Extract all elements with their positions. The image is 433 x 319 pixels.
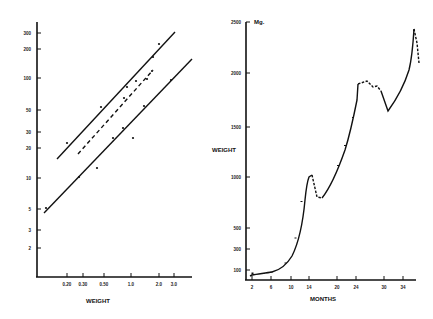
right-y-label: 1500: [231, 125, 242, 130]
left-x-label: 0.20: [63, 282, 72, 287]
right-y-label: 100: [233, 268, 241, 273]
right-x-label: 24: [353, 285, 359, 290]
weight-curve-phase-1: [250, 175, 312, 276]
left-y-label: 3: [28, 228, 31, 233]
left-y-label: 10: [26, 176, 32, 181]
left-x-tick-labels: 0.20 0.30 0.50 1.0 2.0 3.0: [63, 282, 178, 287]
left-y-label: 100: [23, 76, 31, 81]
weight-curve-phase-2: [322, 84, 358, 198]
right-x-label: 6: [270, 285, 273, 290]
weight-curve-phase-3: [381, 29, 414, 111]
right-y-label: 1000: [231, 175, 242, 180]
right-y-axis-title: WEIGHT: [212, 147, 236, 153]
weight-curve-plateau: [358, 81, 381, 91]
left-x-label: 3.0: [171, 282, 178, 287]
left-y-label: 300: [23, 31, 31, 36]
right-x-label: 14: [306, 285, 312, 290]
right-x-tick-labels: 2 6 10 14 20 24 30 34: [251, 285, 406, 290]
figure-canvas: 300 200 100 50 30 20 10 5 3 2 0.20 0.30 …: [0, 0, 433, 319]
weight-curve-final-drop: [414, 29, 419, 63]
weight-curve-dip-1: [312, 175, 322, 198]
right-y-label: 2000: [231, 71, 242, 76]
left-y-tick-labels: 300 200 100 50 30 20 10 5 3 2: [23, 31, 31, 251]
left-x-label: 2.0: [156, 282, 163, 287]
left-y-label: 30: [26, 130, 32, 135]
right-x-label: 20: [334, 285, 340, 290]
right-x-label: 2: [251, 285, 254, 290]
right-y-label: 500: [233, 226, 241, 231]
left-y-label: 5: [28, 207, 31, 212]
left-x-label: 0.30: [79, 282, 88, 287]
left-x-label: 1.0: [128, 282, 135, 287]
left-y-label: 20: [26, 146, 32, 151]
left-y-label: 2: [28, 246, 31, 251]
right-chart: 2500 2000 1500 1000 500 300 100 Mg. WEIG…: [212, 19, 419, 302]
left-x-axis-title: WEIGHT: [86, 298, 110, 304]
right-y-unit: Mg.: [254, 19, 265, 25]
right-y-label: 300: [233, 247, 241, 252]
weight-data-points: [252, 30, 416, 275]
left-y-label: 50: [26, 108, 32, 113]
right-x-axis-title: MONTHS: [310, 296, 336, 302]
left-x-label: 0.50: [100, 282, 109, 287]
right-y-label: 2500: [231, 20, 242, 25]
observation-points: [45, 43, 172, 209]
right-x-label: 30: [381, 285, 387, 290]
lower-fit-line: [44, 59, 192, 213]
left-chart: 300 200 100 50 30 20 10 5 3 2 0.20 0.30 …: [23, 22, 192, 304]
right-x-label: 10: [288, 285, 294, 290]
right-x-label: 34: [400, 285, 406, 290]
left-y-label: 200: [23, 47, 31, 52]
